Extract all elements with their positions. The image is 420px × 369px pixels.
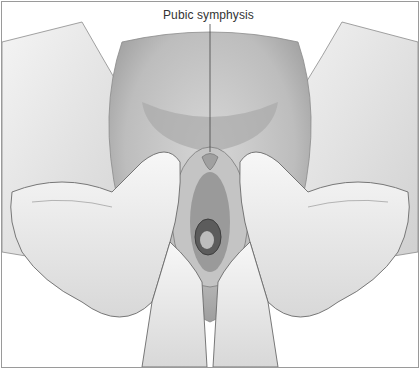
- illustration-frame: Pubic symphysis: [1, 1, 419, 368]
- pubic-symphysis-label: Pubic symphysis: [163, 8, 254, 22]
- anatomical-illustration: [2, 2, 418, 367]
